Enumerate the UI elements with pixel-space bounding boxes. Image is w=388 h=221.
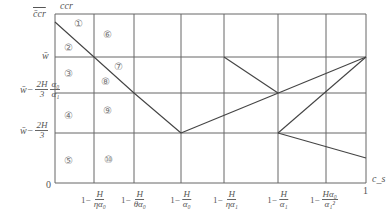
denominator: α₀ (182, 200, 192, 209)
denominator: 3 (39, 90, 46, 99)
prefix: 1− (267, 195, 277, 205)
y-tick-w: w̄ (42, 51, 49, 61)
region-4: ④ (64, 111, 73, 121)
region-6: ⑥ (103, 30, 112, 40)
x-tick-2: 1−Hθα₀ (121, 190, 147, 209)
x-tick-3: 1−Hα₀ (170, 190, 191, 209)
y-top-label: c̄cr (33, 9, 46, 19)
region-2: ② (64, 43, 73, 53)
denominator: α₁ (279, 200, 289, 209)
denominator: θα₀ (133, 200, 147, 209)
x-tick-6: 1−Hα₀α₁² (310, 190, 338, 209)
x-axis-label: c_s (372, 174, 385, 184)
prefix: 1− (81, 195, 91, 205)
region-8: ⑧ (101, 77, 110, 87)
denominator: 3 (39, 131, 46, 140)
prefix: w̄− (20, 126, 33, 136)
prefix: 1− (213, 195, 223, 205)
fraction: 2H3 (35, 121, 48, 140)
y-axis-label: ccr (60, 1, 73, 11)
fraction: Hηα₀ (93, 190, 107, 209)
prefix: 1− (121, 195, 131, 205)
x-end-label: 1 (363, 186, 368, 196)
prefix: w̄− (20, 85, 33, 95)
region-9: ⑨ (103, 106, 112, 116)
boundary-lines (55, 22, 366, 158)
fraction: Hα₀ (182, 190, 192, 209)
fraction: Hα₀α₁² (322, 190, 338, 209)
region-1: ① (74, 19, 83, 29)
prefix: 1− (310, 195, 320, 205)
x-tick-5: 1−Hα₁ (267, 190, 288, 209)
fraction: α₀α₁ (50, 80, 60, 99)
x-tick-4: 1−Hηα₁ (213, 190, 239, 209)
denominator: α₁² (324, 200, 337, 209)
region-5: ⑤ (64, 156, 73, 166)
origin-label: 0 (46, 180, 51, 190)
y-tick-w-2H3-a0a1: w̄− 2H3 α₀α₁ (20, 80, 60, 99)
fraction: Hηα₁ (225, 190, 239, 209)
region-3: ③ (64, 69, 73, 79)
y-tick-w-2H3: w̄− 2H3 (20, 121, 48, 140)
x-tick-1: 1−Hηα₀ (81, 190, 107, 209)
prefix: 1− (170, 195, 180, 205)
fraction: Hα₁ (279, 190, 289, 209)
region-diagram (0, 0, 388, 221)
denominator: α₁ (50, 90, 60, 99)
fraction: 2H3 (35, 80, 48, 99)
denominator: ηα₁ (225, 200, 239, 209)
denominator: ηα₀ (93, 200, 107, 209)
fraction: Hθα₀ (133, 190, 147, 209)
region-10: ⑩ (104, 155, 113, 165)
region-7: ⑦ (114, 62, 123, 72)
